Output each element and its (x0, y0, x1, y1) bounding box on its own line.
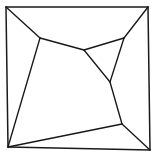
planar-subdivision-diagram (0, 0, 156, 155)
figure-canvas (0, 0, 156, 155)
